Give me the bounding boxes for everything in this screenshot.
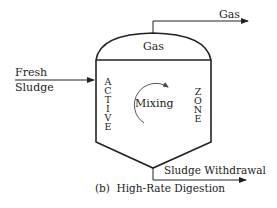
fresh-sludge-label-line2: Sludge bbox=[15, 81, 54, 94]
gas-dome-label: Gas bbox=[143, 40, 164, 53]
active-letter: E bbox=[105, 121, 112, 132]
active-label: A C T I V E bbox=[104, 76, 112, 132]
high-rate-digester-diagram: Gas Gas Fresh Sludge A C T I V E Z O N E… bbox=[0, 0, 277, 208]
sludge-withdrawal-label: Sludge Withdrawal bbox=[164, 164, 267, 176]
gas-outlet-label: Gas bbox=[219, 8, 240, 21]
zone-label: Z O N E bbox=[194, 86, 202, 124]
mixing-label: Mixing bbox=[135, 97, 174, 110]
zone-letter: E bbox=[195, 113, 202, 124]
diagram-caption: (b) High-Rate Digestion bbox=[95, 182, 225, 194]
fresh-sludge-label-line1: Fresh bbox=[15, 66, 47, 79]
gas-outlet-pipe bbox=[153, 21, 248, 33]
